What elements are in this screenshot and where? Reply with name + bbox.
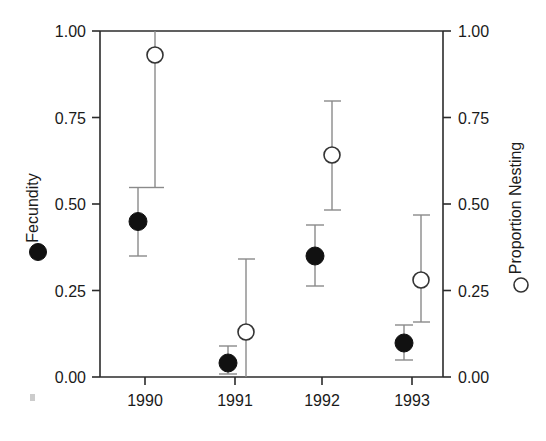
data-group-1991 bbox=[219, 259, 255, 377]
errorbar-nesting-1991 bbox=[238, 259, 255, 377]
left-tick-label-0-75: 0.75 bbox=[55, 110, 86, 127]
marker-fecundity-1990 bbox=[129, 213, 147, 231]
data-group-1993 bbox=[395, 215, 430, 360]
left-axis-title: Fecundity bbox=[24, 173, 41, 242]
right-tick-label-0-75: 0.75 bbox=[458, 110, 489, 127]
plot-frame bbox=[100, 31, 443, 377]
marker-nesting-1992 bbox=[324, 147, 340, 163]
marker-fecundity-1992 bbox=[306, 247, 324, 265]
legend-open-circle-icon bbox=[514, 278, 528, 292]
scatter-plot: 1.00 0.75 0.50 0.25 0.00 1.00 0.75 0.50 … bbox=[0, 0, 546, 441]
figure-container: 1.00 0.75 0.50 0.25 0.00 1.00 0.75 0.50 … bbox=[0, 0, 546, 441]
marker-nesting-1993 bbox=[413, 272, 429, 288]
right-axis-ticks bbox=[443, 31, 451, 377]
marker-nesting-1991 bbox=[238, 324, 254, 340]
right-tick-label-0-50: 0.50 bbox=[458, 196, 489, 213]
left-axis-tick-labels: 1.00 0.75 0.50 0.25 0.00 bbox=[55, 23, 86, 386]
right-tick-label-0-25: 0.25 bbox=[458, 283, 489, 300]
left-tick-label-0-50: 0.50 bbox=[55, 196, 86, 213]
scan-artifact bbox=[30, 394, 35, 401]
x-tick-label-1993: 1993 bbox=[394, 392, 430, 409]
data-group-1992 bbox=[306, 101, 341, 286]
right-tick-label-0-00: 0.00 bbox=[458, 369, 489, 386]
legend-filled-circle-icon bbox=[30, 244, 47, 261]
x-axis-ticks bbox=[145, 377, 412, 385]
data-group-1990 bbox=[129, 31, 164, 256]
marker-fecundity-1991 bbox=[219, 354, 237, 372]
marker-fecundity-1993 bbox=[395, 334, 413, 352]
right-tick-label-1-00: 1.00 bbox=[458, 23, 489, 40]
left-tick-label-0-00: 0.00 bbox=[55, 369, 86, 386]
x-axis-tick-labels: 1990 1991 1992 1993 bbox=[127, 392, 430, 409]
right-axis-tick-labels: 1.00 0.75 0.50 0.25 0.00 bbox=[458, 23, 489, 386]
x-tick-label-1992: 1992 bbox=[304, 392, 340, 409]
marker-nesting-1990 bbox=[147, 47, 163, 63]
left-tick-label-0-25: 0.25 bbox=[55, 283, 86, 300]
errorbar-nesting-1993 bbox=[413, 215, 430, 322]
x-tick-label-1990: 1990 bbox=[127, 392, 163, 409]
right-axis-title: Proportion Nesting bbox=[507, 142, 524, 275]
x-tick-label-1991: 1991 bbox=[217, 392, 253, 409]
left-tick-label-1-00: 1.00 bbox=[55, 23, 86, 40]
left-axis-ticks bbox=[92, 31, 100, 377]
